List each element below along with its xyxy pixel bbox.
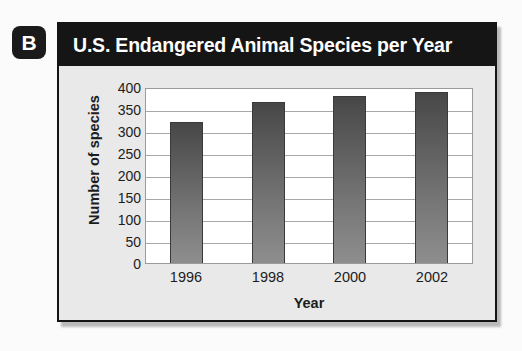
y-axis-tick-label: 300 bbox=[118, 124, 141, 140]
y-axis-tick-label: 350 bbox=[118, 102, 141, 118]
figure-part-label: B bbox=[21, 32, 36, 53]
x-axis-title: Year bbox=[145, 295, 473, 311]
figure-part-badge: B bbox=[12, 26, 46, 59]
chart-panel: U.S. Endangered Animal Species per Year … bbox=[57, 22, 497, 322]
x-axis-tick-labels: 1996199820002002 bbox=[145, 269, 473, 285]
y-axis-tick-labels: 400350300250200150100500 bbox=[97, 88, 141, 264]
x-axis-tick-label: 1996 bbox=[145, 269, 227, 285]
y-axis-tick-label: 250 bbox=[118, 146, 141, 162]
x-axis-tick-label: 2000 bbox=[309, 269, 391, 285]
chart-title: U.S. Endangered Animal Species per Year bbox=[73, 34, 452, 57]
bar-slot bbox=[228, 89, 310, 263]
chart-screenshot: B U.S. Endangered Animal Species per Yea… bbox=[0, 0, 522, 351]
bar-2000 bbox=[333, 96, 366, 263]
plot-area bbox=[145, 88, 473, 264]
y-axis-tick-label: 200 bbox=[118, 168, 141, 184]
bar-series bbox=[146, 89, 472, 263]
y-axis-tick-label: 100 bbox=[118, 212, 141, 228]
bar-1998 bbox=[252, 102, 285, 263]
bar-slot bbox=[391, 89, 473, 263]
bar-1996 bbox=[170, 122, 203, 263]
y-axis-tick-label: 0 bbox=[133, 256, 141, 272]
chart-title-bar: U.S. Endangered Animal Species per Year bbox=[59, 24, 495, 66]
bar-2002 bbox=[415, 92, 448, 263]
chart-body: Number of species 4003503002502001501005… bbox=[59, 66, 495, 320]
y-axis-tick-label: 50 bbox=[125, 234, 141, 250]
y-axis-tick-label: 400 bbox=[118, 80, 141, 96]
bar-slot bbox=[309, 89, 391, 263]
y-axis-tick-label: 150 bbox=[118, 190, 141, 206]
x-axis-tick-label: 1998 bbox=[227, 269, 309, 285]
x-axis-tick-label: 2002 bbox=[391, 269, 473, 285]
bar-slot bbox=[146, 89, 228, 263]
